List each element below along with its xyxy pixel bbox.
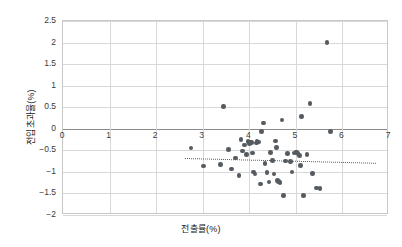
scatter-point [268, 150, 273, 155]
scatter-point [305, 152, 310, 157]
scatter-point [250, 151, 255, 156]
scatter-chart-figure: −2−1.5−1−0.500.511.522.5 01234567 전출률(%)… [0, 0, 402, 247]
y-tick-label: −1 [2, 167, 56, 176]
x-tick-label: 7 [373, 131, 402, 140]
scatter-point [218, 162, 223, 167]
scatter-point [272, 172, 277, 177]
plot-area [62, 20, 388, 214]
y-tick-label: −2 [2, 210, 56, 219]
x-tick-label: 5 [280, 131, 310, 140]
x-axis-label: 전출률(%) [0, 222, 402, 235]
scatter-point [258, 182, 263, 187]
gridline-vertical [249, 21, 250, 213]
gridline-vertical [156, 21, 157, 213]
gridline-horizontal [63, 150, 387, 151]
scatter-point [201, 164, 206, 169]
gridline-vertical [296, 21, 297, 213]
scatter-point [308, 101, 313, 106]
y-tick-label: 2 [2, 37, 56, 46]
scatter-point [229, 167, 234, 172]
gridline-horizontal [63, 86, 387, 87]
scatter-point [253, 172, 258, 177]
y-tick-label: 2.5 [2, 16, 56, 25]
y-axis-label: 전입초과율(%) [24, 89, 37, 145]
y-tick-label: 1.5 [2, 59, 56, 68]
x-tick-label: 2 [140, 131, 170, 140]
gridline-horizontal [63, 172, 387, 173]
scatter-point [297, 153, 302, 158]
x-tick-label: 3 [187, 131, 217, 140]
scatter-point [325, 40, 330, 45]
scatter-point [265, 170, 270, 175]
trendline [185, 158, 375, 164]
scatter-point [267, 180, 272, 185]
x-tick-label: 6 [326, 131, 356, 140]
scatter-point [285, 151, 290, 156]
scatter-point [278, 180, 283, 185]
x-tick-label: 0 [47, 131, 77, 140]
scatter-point [299, 114, 304, 119]
x-tick-label: 4 [233, 131, 263, 140]
scatter-point [281, 193, 286, 198]
scatter-point [310, 171, 315, 176]
gridline-vertical [203, 21, 204, 213]
scatter-point [274, 145, 279, 150]
gridline-vertical [342, 21, 343, 213]
scatter-point [244, 152, 249, 157]
y-tick-label: −0.5 [2, 145, 56, 154]
scatter-point [318, 186, 323, 191]
y-tick-label: 1 [2, 80, 56, 89]
gridline-horizontal [63, 193, 387, 194]
gridline-horizontal [63, 64, 387, 65]
scatter-point [221, 104, 226, 109]
scatter-point [301, 193, 306, 198]
scatter-point [237, 173, 242, 178]
gridline-horizontal [63, 43, 387, 44]
gridline-horizontal [63, 215, 387, 216]
x-tick-label: 1 [94, 131, 124, 140]
scatter-point [298, 163, 303, 168]
gridline-vertical [110, 21, 111, 213]
gridline-horizontal [63, 21, 387, 22]
y-tick-label: −1.5 [2, 188, 56, 197]
scatter-point [226, 147, 231, 152]
scatter-point [261, 121, 266, 126]
x-axis-tick-labels: 01234567 [62, 131, 388, 143]
scatter-point [280, 118, 285, 123]
scatter-point [263, 161, 268, 166]
scatter-point [290, 170, 295, 175]
